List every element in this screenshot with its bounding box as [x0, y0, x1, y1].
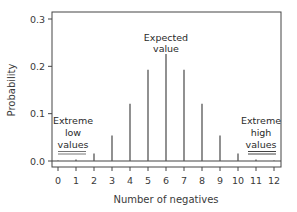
probability-stem-chart: 0.00.10.20.3 0123456789101112 Number of …	[0, 0, 297, 212]
x-tick-label: 5	[145, 175, 151, 186]
x-tick-label: 2	[91, 175, 97, 186]
annotation-extreme-low: Extreme low values	[53, 115, 93, 154]
x-tick-label: 3	[109, 175, 115, 186]
svg-text:values: values	[246, 139, 277, 150]
y-tick-label: 0.0	[30, 156, 45, 167]
x-axis: 0123456789101112	[55, 167, 280, 186]
y-axis: 0.00.10.20.3	[30, 14, 52, 167]
x-tick-label: 9	[217, 175, 223, 186]
x-tick-label: 4	[127, 175, 133, 186]
svg-text:high: high	[251, 127, 272, 138]
svg-text:Extreme: Extreme	[53, 115, 93, 126]
annotation-extreme-high: Extreme high values	[241, 115, 281, 154]
y-tick-label: 0.2	[30, 61, 45, 72]
svg-text:values: values	[58, 139, 89, 150]
x-tick-label: 11	[250, 175, 262, 186]
svg-text:low: low	[65, 127, 81, 138]
x-axis-title: Number of negatives	[113, 194, 218, 205]
y-tick-label: 0.1	[30, 108, 45, 119]
x-tick-label: 7	[181, 175, 187, 186]
y-tick-label: 0.3	[30, 14, 45, 25]
x-tick-label: 0	[55, 175, 61, 186]
x-tick-label: 10	[232, 175, 244, 186]
annotation-expected-value: Expected value	[144, 32, 188, 54]
svg-text:Extreme: Extreme	[241, 115, 281, 126]
x-tick-label: 8	[199, 175, 205, 186]
svg-text:Expected: Expected	[144, 32, 188, 43]
svg-text:value: value	[153, 43, 179, 54]
x-tick-label: 12	[268, 175, 280, 186]
x-tick-label: 1	[73, 175, 79, 186]
stems	[58, 54, 274, 161]
y-axis-title: Probability	[6, 63, 17, 116]
x-tick-label: 6	[163, 175, 169, 186]
